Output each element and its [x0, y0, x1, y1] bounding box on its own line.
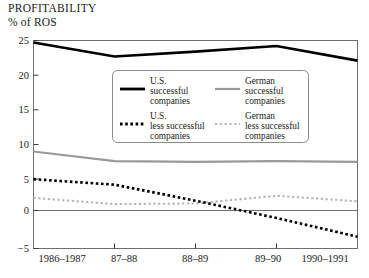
x-tick-label-0: 1986–1987: [38, 253, 85, 264]
x-tick-label-4: 1990–1991: [301, 253, 348, 264]
series-line-us-successful: [34, 43, 358, 61]
legend-label-us-successful-l2: successful: [150, 86, 189, 96]
y-tick-label-25: 25: [19, 35, 30, 46]
legend-label-us-less-successful-l2: less successful: [150, 121, 205, 131]
y-tick-label-minus5: −5: [18, 243, 29, 254]
legend-label-german-successful-l1: German: [245, 76, 275, 86]
y-tick-label-0: 0: [24, 205, 29, 216]
legend-label-german-less-successful-l2: less successful: [245, 121, 300, 131]
legend-label-us-successful-l1: U.S.: [150, 76, 167, 86]
legend-label-german-successful-l3: companies: [245, 96, 285, 106]
profitability-line-chart: 25 20 15 10 5 0 −5 1986–1987 87–88 88–89…: [0, 0, 369, 278]
legend-label-german-less-successful-l3: companies: [245, 131, 285, 141]
y-tick-label-20: 20: [19, 70, 30, 81]
x-tick-label-2: 88–89: [182, 253, 208, 264]
chart-page: PROFITABILITY % of ROS 25 20 15 10 5 0 −…: [0, 0, 369, 278]
y-tick-label-15: 15: [19, 104, 30, 115]
x-tick-label-1: 87–88: [111, 253, 137, 264]
chart-legend: U.S. successful companies German success…: [113, 71, 309, 143]
legend-label-us-successful-l3: companies: [150, 96, 190, 106]
legend-label-german-less-successful-l1: German: [245, 111, 275, 121]
legend-label-us-less-successful-l3: companies: [150, 131, 190, 141]
legend-label-us-less-successful-l1: U.S.: [150, 111, 167, 121]
legend-label-german-successful-l2: successful: [245, 86, 284, 96]
series-line-us-less-successful: [34, 179, 358, 237]
y-axis-ticks: [34, 41, 39, 249]
y-tick-label-10: 10: [19, 139, 30, 150]
x-tick-label-3: 89–90: [255, 253, 281, 264]
series-line-german-successful: [34, 151, 358, 161]
y-tick-label-5: 5: [24, 174, 29, 185]
x-axis-ticks: [115, 244, 277, 249]
